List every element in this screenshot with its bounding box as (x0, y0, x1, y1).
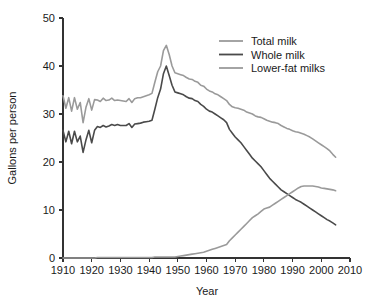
series-layer (63, 45, 336, 258)
x-tick-label: 1990 (280, 264, 304, 276)
y-tick-label: 50 (43, 12, 55, 24)
x-tick-label: 1980 (252, 264, 276, 276)
x-tick-label: 1910 (51, 264, 75, 276)
x-tick-label: 1960 (194, 264, 218, 276)
y-tick-label: 40 (43, 60, 55, 72)
x-tick-label: 2010 (338, 264, 362, 276)
x-tick-label: 1930 (108, 264, 132, 276)
legend-layer: Total milkWhole milkLower-fat milks (219, 35, 325, 74)
legend-label-1: Whole milk (251, 49, 305, 61)
y-tick-label: 30 (43, 108, 55, 120)
x-tick-label: 1940 (137, 264, 161, 276)
chart-canvas: 0102030405019101920193019401950196019701… (0, 0, 373, 303)
legend-label-2: Lower-fat milks (251, 62, 325, 74)
tick-label-layer: 0102030405019101920193019401950196019701… (43, 12, 362, 276)
series-line-lower-fat-milks (63, 186, 336, 258)
y-tick-label: 10 (43, 204, 55, 216)
x-tick-label: 1970 (223, 264, 247, 276)
legend-label-0: Total milk (251, 35, 297, 47)
x-tick-label: 2000 (309, 264, 333, 276)
axis-layer (59, 18, 350, 262)
y-tick-label: 20 (43, 156, 55, 168)
x-tick-label: 1950 (166, 264, 190, 276)
series-line-whole-milk (63, 66, 336, 225)
x-tick-label: 1920 (79, 264, 103, 276)
milk-consumption-chart: 0102030405019101920193019401950196019701… (0, 0, 373, 303)
y-axis-title: Gallons per person (6, 92, 18, 185)
x-axis-title: Year (196, 285, 219, 297)
y-tick-label: 0 (49, 252, 55, 264)
